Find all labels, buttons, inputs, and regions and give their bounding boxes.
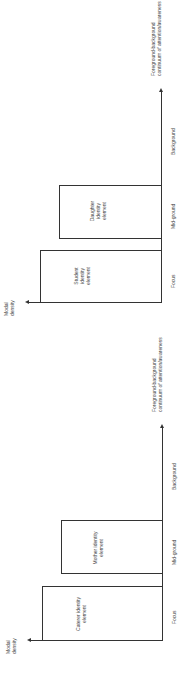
category-background: Background xyxy=(170,128,176,155)
bar-daughter xyxy=(59,185,162,239)
y-axis-arrow-icon xyxy=(25,300,29,304)
element-label-student: Student identity element xyxy=(73,259,91,293)
category-midground: Mid-ground xyxy=(170,204,176,229)
x-axis-arrow-icon xyxy=(159,88,163,92)
bar-student xyxy=(40,250,162,303)
y-axis-label: Modal density xyxy=(5,630,17,654)
element-label-mother: Mother identity element xyxy=(92,531,104,565)
category-background: Background xyxy=(171,463,177,490)
element-label-caterer: Caterer identity element xyxy=(75,597,87,631)
element-label-daughter: Daughter identity element xyxy=(89,194,107,228)
bar-caterer xyxy=(42,586,163,641)
bar-mother xyxy=(61,520,163,574)
y-axis-label: Modal density xyxy=(3,292,15,316)
x-axis-label: Foreground-background continuum of atten… xyxy=(151,336,163,412)
x-axis-label: Foreground-background continuum of atten… xyxy=(150,0,162,76)
category-focus: Focus xyxy=(170,274,176,288)
y-axis-arrow-icon xyxy=(27,638,31,642)
category-midground: Mid-ground xyxy=(171,540,177,565)
x-axis-arrow-icon xyxy=(160,424,164,428)
category-focus: Focus xyxy=(171,610,177,624)
